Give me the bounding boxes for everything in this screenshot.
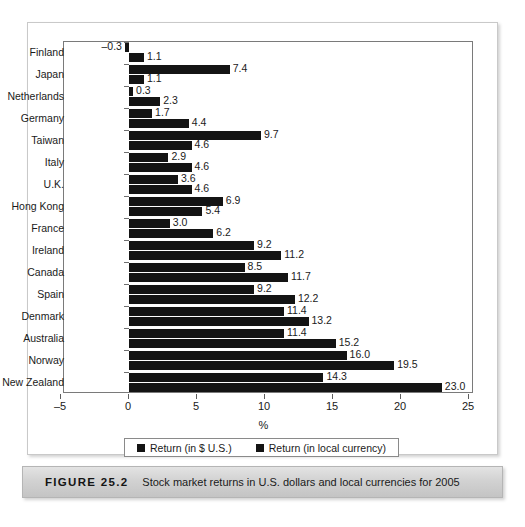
- chart-plot-area: Finland–0.31.1Japan7.41.1Netherlands0.32…: [63, 41, 473, 393]
- bar-usd: [129, 329, 284, 338]
- figure-caption-bar: FIGURE 25.2 Stock market returns in U.S.…: [22, 466, 503, 498]
- bar-usd: [129, 285, 254, 294]
- bar-value-label: 4.6: [195, 162, 210, 171]
- bar-value-label: 2.3: [163, 96, 178, 105]
- chart-group: Taiwan9.74.6: [64, 130, 472, 152]
- bar-local: [129, 207, 202, 216]
- category-label: Denmark: [0, 310, 64, 322]
- category-label: Italy: [0, 156, 64, 168]
- category-label: Australia: [0, 332, 64, 344]
- x-axis-tick-label: –5: [54, 400, 66, 412]
- figure-card: Finland–0.31.1Japan7.41.1Netherlands0.32…: [27, 22, 498, 455]
- chart-group: Germany1.74.4: [64, 108, 472, 130]
- x-axis-tick-label: 20: [394, 400, 406, 412]
- category-label: Germany: [0, 112, 64, 124]
- bar-value-label: 8.5: [248, 262, 263, 271]
- bar-local: [129, 251, 281, 260]
- chart-group: Japan7.41.1: [64, 64, 472, 86]
- bar-value-label: –0.3: [64, 42, 122, 51]
- bar-local: [129, 75, 144, 84]
- x-axis: –50510152025: [63, 394, 473, 420]
- chart-group: Netherlands0.32.3: [64, 86, 472, 108]
- chart-group: U.K.3.64.6: [64, 174, 472, 196]
- bar-value-label: 13.2: [312, 316, 332, 325]
- bar-value-label: 3.0: [173, 218, 188, 227]
- bar-value-label: 4.6: [195, 140, 210, 149]
- chart-group: Canada8.511.7: [64, 262, 472, 284]
- bar-usd: [129, 219, 170, 228]
- chart-group: New Zealand14.323.0: [64, 372, 472, 394]
- bar-value-label: 1.7: [155, 108, 170, 117]
- x-axis-tick-label: 0: [125, 400, 131, 412]
- bar-value-label: 4.6: [195, 184, 210, 193]
- bar-local: [129, 119, 189, 128]
- bar-value-label: 5.4: [205, 206, 220, 215]
- bar-value-label: 11.4: [287, 328, 307, 337]
- bar-usd: [125, 43, 129, 52]
- bar-value-label: 14.3: [326, 372, 346, 381]
- bar-local: [129, 185, 192, 194]
- x-axis-title: %: [28, 419, 499, 431]
- bar-usd: [129, 153, 168, 162]
- bar-value-label: 11.4: [287, 306, 307, 315]
- bar-local: [129, 163, 192, 172]
- chart-group: Hong Kong6.95.4: [64, 196, 472, 218]
- x-axis-tick-label: 5: [193, 400, 199, 412]
- category-label: France: [0, 222, 64, 234]
- category-label: U.K.: [0, 178, 64, 190]
- x-axis-tick: [468, 394, 469, 399]
- chart-bars-container: Finland–0.31.1Japan7.41.1Netherlands0.32…: [64, 42, 472, 392]
- bar-usd: [129, 175, 178, 184]
- bar-usd: [129, 65, 230, 74]
- bar-value-label: 6.2: [216, 228, 231, 237]
- chart-group: Spain9.212.2: [64, 284, 472, 306]
- category-label: Norway: [0, 354, 64, 366]
- bar-value-label: 9.7: [264, 130, 279, 139]
- bar-usd: [129, 87, 133, 96]
- bar-local: [129, 339, 336, 348]
- bar-value-label: 11.2: [284, 250, 304, 259]
- x-axis-tick: [332, 394, 333, 399]
- category-label: Finland: [0, 46, 64, 58]
- bar-value-label: 4.4: [192, 118, 207, 127]
- bar-local: [129, 383, 442, 392]
- chart-group: Norway16.019.5: [64, 350, 472, 372]
- chart-group: Denmark11.413.2: [64, 306, 472, 328]
- chart-group: Australia11.415.2: [64, 328, 472, 350]
- x-axis-tick-label: 15: [326, 400, 338, 412]
- legend-item-local: Return (in local currency): [256, 442, 386, 454]
- bar-value-label: 19.5: [397, 360, 417, 369]
- x-axis-tick-label: 25: [462, 400, 474, 412]
- category-label: Canada: [0, 266, 64, 278]
- bar-value-label: 9.2: [257, 284, 272, 293]
- figure-caption-text: Stock market returns in U.S. dollars and…: [142, 476, 459, 488]
- bar-value-label: 15.2: [339, 338, 359, 347]
- bar-usd: [129, 307, 284, 316]
- bar-value-label: 23.0: [445, 382, 465, 391]
- category-label: Taiwan: [0, 134, 64, 146]
- bar-local: [129, 141, 192, 150]
- bar-usd: [129, 351, 347, 360]
- chart-group: France3.06.2: [64, 218, 472, 240]
- bar-value-label: 7.4: [233, 64, 248, 73]
- bar-value-label: 11.7: [291, 272, 311, 281]
- bar-local: [129, 53, 144, 62]
- bar-value-label: 16.0: [350, 350, 370, 359]
- x-axis-tick-label: 10: [258, 400, 270, 412]
- bar-local: [129, 229, 213, 238]
- x-axis-tick: [264, 394, 265, 399]
- bar-local: [129, 361, 394, 370]
- category-label: Japan: [0, 68, 64, 80]
- x-axis-tick: [400, 394, 401, 399]
- legend-label-usd: Return (in $ U.S.): [150, 442, 232, 454]
- category-label: Hong Kong: [0, 200, 64, 212]
- bar-local: [129, 317, 309, 326]
- bar-usd: [129, 241, 254, 250]
- bar-local: [129, 97, 160, 106]
- x-axis-tick: [60, 394, 61, 399]
- bar-usd: [129, 109, 152, 118]
- legend-item-usd: Return (in $ U.S.): [137, 442, 232, 454]
- bar-value-label: 2.9: [171, 152, 186, 161]
- bar-value-label: 1.1: [147, 74, 162, 83]
- chart-group: Finland–0.31.1: [64, 42, 472, 64]
